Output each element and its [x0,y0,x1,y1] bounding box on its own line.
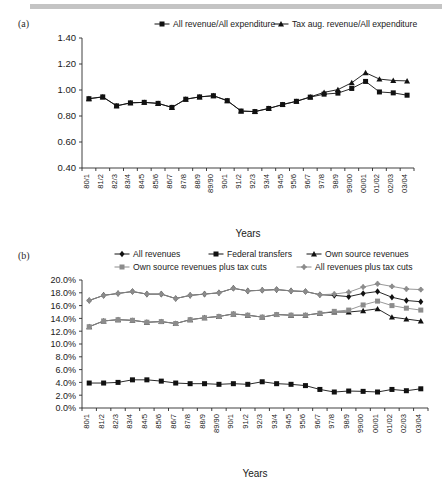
data-point-b-0-23 [418,298,423,305]
data-point-b-4-10 [230,285,236,291]
data-point-b-4-1 [101,292,107,298]
y-tick-label-a-1: 0.60 [58,136,77,147]
x-tick-label-b-22: 02/03 [399,414,408,433]
line-chart-a: All revenue/All expenditureTax aug. reve… [0,12,448,240]
data-point-b-3-7 [188,317,193,322]
data-point-b-3-21 [389,303,394,308]
data-point-b-0-21 [389,294,394,301]
series-b-1 [87,377,424,394]
y-tick-label-b-3: 6.0% [55,365,76,375]
legend-marker-a-1 [274,21,289,26]
x-tick-label-b-21: 01/02 [385,414,394,433]
x-tick-label-b-7: 87/8 [183,414,192,429]
data-point-b-3-10 [231,311,236,316]
series-a-0 [86,79,409,114]
data-point-b-1-0 [87,381,92,386]
x-tick-label-a-8: 88/9 [193,174,202,189]
chart-panel-b: (b) All revenuesFederal transfersOwn sou… [0,244,448,480]
data-point-b-4-23 [418,287,424,293]
series-a-1 [86,70,410,114]
data-point-b-4-0 [86,298,92,304]
data-point-b-3-4 [144,320,149,325]
x-tick-label-b-16: 96/7 [313,414,322,429]
x-tick-label-a-3: 83/4 [123,174,132,189]
data-point-b-4-17 [331,291,337,297]
y-tick-label-b-9: 18.0% [50,288,76,298]
data-point-b-3-18 [346,308,351,313]
legend-marker-b-0 [115,251,130,258]
x-tick-label-a-23: 03/04 [400,174,409,193]
legend-label-b-2: Own source revenues [325,249,409,259]
series-b-2 [86,306,424,329]
data-point-a-0-19 [349,86,354,91]
data-point-a-0-21 [377,89,382,94]
x-tick-label-b-0: 80/1 [82,414,91,429]
data-point-b-3-14 [289,313,294,318]
x-tick-label-b-2: 82/3 [111,414,120,429]
y-tick-label-b-0: 0.0% [55,403,76,413]
data-point-b-4-19 [360,284,366,290]
x-tick-label-a-11: 91/2 [234,174,243,189]
legend-marker-b-0-marker [120,251,125,258]
data-point-b-3-3 [130,318,135,323]
legend-label-b-1: Federal transfers [227,249,292,259]
data-point-b-4-8 [202,291,208,297]
x-tick-label-b-3: 83/4 [125,414,134,429]
legend-label-a-1: Tax aug. revenue/All expenditure [292,19,417,29]
x-tick-label-a-0: 80/1 [82,174,91,189]
x-tick-label-b-23: 03/04 [414,414,423,433]
x-ticks-b: 80/181/282/383/484/585/686/787/888/989/9… [82,408,428,433]
x-tick-label-b-13: 93/4 [270,414,279,429]
x-tick-label-a-22: 02/03 [386,174,395,193]
data-point-b-2-20 [375,306,381,311]
data-point-b-1-7 [188,381,193,386]
data-point-b-3-23 [418,308,423,313]
data-point-b-1-22 [404,388,409,393]
x-tick-label-a-6: 86/7 [165,174,174,189]
data-point-b-1-11 [245,382,250,387]
y-tick-label-a-4: 1.20 [58,58,77,69]
data-point-b-4-12 [259,287,265,293]
x-tick-label-b-14: 94/5 [284,414,293,429]
x-tick-label-b-6: 86/7 [169,414,178,429]
legend-marker-a-0 [155,22,170,27]
x-tick-label-b-4: 84/5 [140,414,149,429]
x-tick-label-b-15: 95/6 [298,414,307,429]
x-tick-label-a-16: 96/7 [303,174,312,189]
data-point-a-1-20 [363,70,369,75]
panel-a-label: (a) [18,18,29,29]
data-point-b-3-12 [260,315,265,320]
legend-label-b-4: All revenues plus tax cuts [315,262,412,272]
x-ticks-a: 80/181/282/383/484/585/686/787/888/989/9… [82,168,414,193]
x-tick-label-a-1: 81/2 [96,174,105,189]
data-point-a-1-19 [349,80,355,85]
data-point-b-3-9 [216,314,221,319]
data-point-b-4-2 [115,290,121,296]
x-tick-label-a-18: 98/9 [331,174,340,189]
data-point-b-4-6 [173,296,179,302]
data-point-b-4-13 [274,287,280,293]
y-tick-label-b-6: 12.0% [50,327,76,337]
x-tick-label-b-17: 97/8 [327,414,336,429]
chart-panel-a: (a) All revenue/All expenditureTax aug. … [0,12,448,240]
x-tick-label-a-9: 89/90 [206,174,215,193]
legend-label-a-0: All revenue/All expenditure [173,19,275,29]
x-tick-label-a-17: 97/8 [317,174,326,189]
legend-marker-b-1-marker [214,252,219,257]
y-tick-label-a-3: 1.00 [58,84,77,95]
panel-b-label: (b) [18,250,30,261]
data-point-b-1-9 [216,382,221,387]
x-tick-label-b-9: 89/90 [212,414,221,433]
legend-marker-b-4-marker [301,264,307,270]
x-tick-label-b-18: 98/9 [342,414,351,429]
data-point-b-3-2 [116,317,121,322]
data-point-b-1-1 [101,381,106,386]
data-point-a-0-20 [363,79,368,84]
y-tick-label-b-8: 16.0% [50,301,76,311]
data-point-a-0-22 [391,90,396,95]
data-point-b-1-19 [361,389,366,394]
legend-marker-a-0-marker [160,22,165,27]
x-tick-label-b-12: 92/3 [255,414,264,429]
y-ticks-b: 0.0%2.0%4.0%6.0%8.0%10.0%12.0%14.0%16.0%… [50,275,82,413]
data-point-b-1-21 [389,387,394,392]
